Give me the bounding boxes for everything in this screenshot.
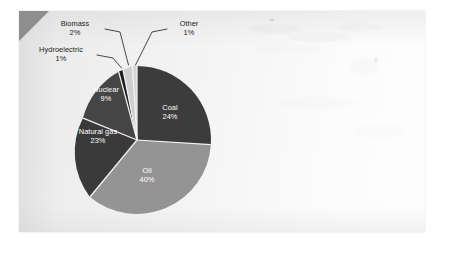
pie-label-biomass-name: Biomass (49, 19, 101, 28)
scanned-page-sheet: Biomass 2% Hydroelectric 1% Other 1% Coa… (19, 11, 425, 232)
pie-label-nuclear-name: Nuclear (83, 85, 129, 94)
pie-label-oil: Oil 40% (130, 166, 164, 184)
pie-label-biomass: Biomass 2% (49, 19, 101, 37)
pie-label-hydroelectric-name: Hydroelectric (25, 45, 97, 54)
pie-label-natural-gas-name: Natural gas (67, 127, 129, 136)
pie-label-biomass-value: 2% (49, 28, 101, 37)
leader-line-biomass (105, 29, 129, 65)
leader-line-other (136, 29, 168, 65)
pie-chart: Biomass 2% Hydroelectric 1% Other 1% Coa… (19, 11, 425, 232)
pie-label-nuclear-value: 9% (83, 94, 129, 103)
pie-label-other-name: Other (169, 19, 209, 28)
pie-label-coal: Coal 24% (150, 103, 190, 121)
pie-label-natural-gas: Natural gas 23% (67, 127, 129, 145)
pie-label-oil-value: 40% (130, 175, 164, 184)
pie-label-coal-value: 24% (150, 112, 190, 121)
pie-label-hydroelectric: Hydroelectric 1% (25, 45, 97, 63)
pie-label-other-value: 1% (169, 28, 209, 37)
pie-label-other: Other 1% (169, 19, 209, 37)
pie-leader-lines (97, 29, 167, 68)
pie-label-oil-name: Oil (130, 166, 164, 175)
pie-label-nuclear: Nuclear 9% (83, 85, 129, 103)
leader-line-hydroelectric (97, 55, 122, 68)
pie-label-natural-gas-value: 23% (67, 136, 129, 145)
pie-label-hydroelectric-value: 1% (25, 54, 97, 63)
pie-label-coal-name: Coal (150, 103, 190, 112)
